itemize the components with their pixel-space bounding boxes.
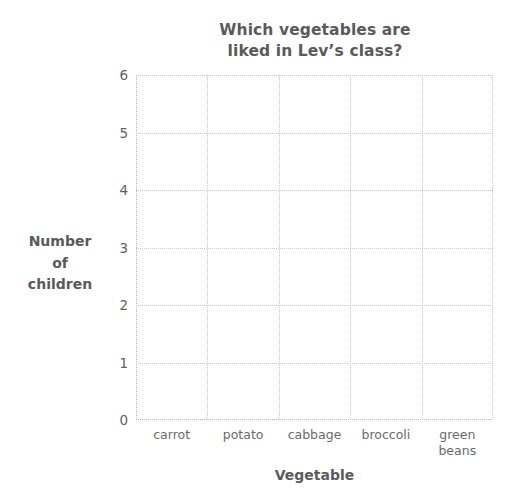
bars-layer bbox=[136, 75, 493, 420]
chart-title-line-1: Which vegetables are bbox=[136, 20, 494, 41]
y-axis-title-line-1: Number bbox=[8, 231, 112, 253]
x-axis-title: Vegetable bbox=[136, 466, 493, 484]
x-tick-label-broccoli: broccoli bbox=[350, 427, 421, 443]
y-tick-label-2: 2 bbox=[102, 298, 128, 312]
x-tick-label-line-2: beans bbox=[422, 443, 493, 459]
x-tick-label-line-1: cabbage bbox=[279, 427, 350, 443]
x-tick-label-line-1: broccoli bbox=[350, 427, 421, 443]
y-tick-label-3: 3 bbox=[102, 241, 128, 255]
y-axis-title: Number of children bbox=[8, 231, 112, 296]
y-axis-title-line-2: of bbox=[8, 253, 112, 275]
y-tick-label-6: 6 bbox=[102, 68, 128, 82]
x-tick-label-line-1: carrot bbox=[136, 427, 207, 443]
y-axis-title-line-3: children bbox=[8, 274, 112, 296]
x-tick-label-potato: potato bbox=[207, 427, 278, 443]
chart-title: Which vegetables are liked in Lev’s clas… bbox=[136, 20, 494, 62]
y-tick-label-1: 1 bbox=[102, 356, 128, 370]
x-tick-label-green-beans: greenbeans bbox=[422, 427, 493, 459]
x-tick-label-carrot: carrot bbox=[136, 427, 207, 443]
y-tick-label-0: 0 bbox=[102, 413, 128, 427]
y-tick-label-5: 5 bbox=[102, 126, 128, 140]
chart-title-line-2: liked in Lev’s class? bbox=[136, 41, 494, 62]
x-tick-label-line-1: potato bbox=[207, 427, 278, 443]
plot-area bbox=[136, 75, 493, 420]
y-tick-label-4: 4 bbox=[102, 183, 128, 197]
x-tick-label-line-1: green bbox=[422, 427, 493, 443]
bar-chart: Which vegetables are liked in Lev’s clas… bbox=[0, 0, 520, 501]
x-tick-label-cabbage: cabbage bbox=[279, 427, 350, 443]
